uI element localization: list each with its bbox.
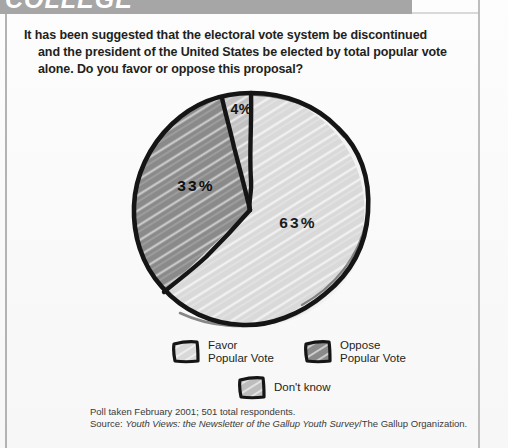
- pie-label-favor: 63%: [279, 214, 317, 231]
- chart-legend: Favor Popular Vote Oppose Popular Vote: [0, 336, 508, 404]
- legend-label-dontknow-line-1: Don't know: [274, 381, 331, 394]
- footnote-source-suffix: /The Gallup Organization.: [359, 418, 467, 429]
- poll-question-line-2: and the president of the United States b…: [24, 44, 474, 61]
- legend-label-oppose-line-1: Oppose: [340, 339, 406, 352]
- poll-question-line-3: alone. Do you favor or oppose this propo…: [24, 61, 474, 78]
- pie-label-oppose: 33%: [177, 177, 215, 194]
- section-title: COLLEGE: [5, 0, 133, 12]
- legend-label-favor-line-1: Favor: [208, 339, 274, 352]
- pie-chart-svg: 63% 33% 4%: [120, 82, 390, 337]
- legend-label-favor-line-2: Popular Vote: [208, 352, 274, 365]
- footnote-source-title: Youth Views: the Newsletter of the Gallu…: [125, 418, 359, 429]
- legend-label-dontknow: Don't know: [274, 381, 331, 394]
- pie-label-dontknow: 4%: [230, 101, 251, 117]
- footnote-source: Source: Youth Views: the Newsletter of t…: [90, 418, 480, 430]
- legend-swatch-favor-icon: [171, 340, 201, 364]
- legend-label-favor: Favor Popular Vote: [208, 339, 274, 364]
- section-header-band: COLLEGE: [0, 0, 412, 14]
- legend-label-oppose: Oppose Popular Vote: [340, 339, 406, 364]
- chart-footnote: Poll taken February 2001; 501 total resp…: [90, 406, 480, 429]
- poll-question: It has been suggested that the electoral…: [24, 27, 474, 78]
- header-top-rule: [412, 12, 478, 14]
- figure-page: COLLEGE It has been suggested that the e…: [0, 0, 508, 448]
- legend-label-oppose-line-2: Popular Vote: [340, 352, 406, 365]
- legend-swatch-dontknow-icon: [237, 376, 267, 400]
- footnote-source-prefix: Source:: [90, 418, 125, 429]
- footnote-poll-info: Poll taken February 2001; 501 total resp…: [90, 406, 480, 418]
- legend-swatch-oppose-icon: [303, 340, 333, 364]
- pie-chart: 63% 33% 4%: [120, 82, 390, 337]
- poll-question-line-1: It has been suggested that the electoral…: [24, 27, 474, 44]
